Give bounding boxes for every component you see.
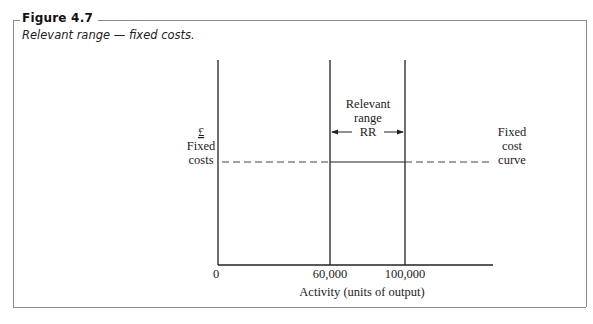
x-tick-100000: 100,000 xyxy=(385,267,426,281)
rr-arrow-right-icon xyxy=(397,130,404,135)
curve-label-line1: Fixed xyxy=(498,125,527,139)
y-label-currency: £ xyxy=(198,125,204,139)
x-tick-60000: 60,000 xyxy=(313,267,347,281)
y-label-line3: costs xyxy=(189,153,214,167)
rr-label-line1: Relevant xyxy=(346,97,391,111)
x-axis-label: Activity (units of output) xyxy=(299,285,424,299)
y-label-line2: Fixed xyxy=(187,139,216,153)
curve-label-line2: cost xyxy=(502,139,523,153)
rr-label-line2: range xyxy=(354,111,382,125)
rr-arrow-left-icon xyxy=(331,130,338,135)
relevant-range-chart: Relevant range RR £ Fixed costs Fixed co… xyxy=(0,0,593,324)
rr-label-line3: RR xyxy=(360,125,377,139)
x-tick-0: 0 xyxy=(213,267,219,281)
curve-label-line3: curve xyxy=(498,153,526,167)
